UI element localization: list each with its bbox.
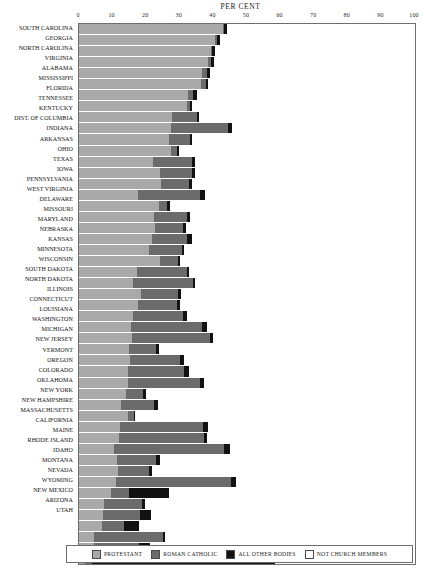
bar-segment-none (205, 190, 415, 200)
bar-row (79, 157, 415, 168)
bar-segment-none (192, 179, 415, 189)
bar-segment-cath (121, 400, 154, 410)
bar-segment-cath (159, 201, 168, 211)
bar-segment-none (189, 267, 415, 277)
bar-segment-none (145, 499, 415, 509)
bar-segment-cath (138, 300, 178, 310)
bar-row (79, 256, 415, 267)
y-axis-label: WEST VIRGINIA (0, 184, 76, 194)
y-axis-label: ALABAMA (0, 63, 76, 73)
y-axis-label: CONNECTICUT (0, 294, 76, 304)
bar-segment-cath (116, 477, 231, 487)
bar-segment-cath (102, 521, 124, 531)
bar-segment-none (180, 256, 415, 266)
bar-row (79, 245, 415, 256)
legend-label: NOT CHURCH MEMBERS (317, 551, 387, 557)
y-axis-label: OHIO (0, 144, 76, 154)
bar-segment-prot (79, 289, 141, 299)
bar-segment-none (208, 79, 415, 89)
bar-segment-prot (79, 477, 116, 487)
bar-segment-none (199, 112, 415, 122)
bar-segment-prot (79, 57, 208, 67)
bar-row (79, 411, 415, 422)
bar-segment-cath (133, 311, 183, 321)
bar-row (79, 400, 415, 411)
y-axis-label: CALIFORNIA (0, 415, 76, 425)
bar-segment-none (192, 234, 415, 244)
bar-row (79, 134, 415, 145)
x-tick-label: 30 (176, 12, 182, 18)
bar-segment-none (159, 344, 415, 354)
bar-segment-prot (79, 411, 128, 421)
bar-segment-none (207, 322, 415, 332)
bar-segment-prot (79, 146, 171, 156)
bar-row (79, 455, 415, 466)
bar-segment-cath (155, 223, 184, 233)
bar-segment-prot (79, 190, 138, 200)
legend-swatch-icon (151, 550, 160, 559)
bar-segment-cath (118, 466, 150, 476)
y-axis-label: NEW HAMPSHIRE (0, 395, 76, 405)
bar-row (79, 477, 415, 488)
bar-segment-cath (137, 267, 187, 277)
bar-row (79, 466, 415, 477)
bar-segment-other (129, 488, 169, 498)
bar-segment-prot (79, 90, 188, 100)
y-axis-label: NEBRASKA (0, 224, 76, 234)
bar-row (79, 101, 415, 112)
bar-row (79, 146, 415, 157)
chart-root: PER CENT 0102030405060708090100 SOUTH CA… (0, 0, 429, 573)
legend-swatch-icon (226, 550, 235, 559)
legend-label: PROTESTANT (104, 551, 142, 557)
bar-segment-none (227, 24, 414, 34)
y-axis-label: NEW JERSEY (0, 334, 76, 344)
y-axis-label: TEXAS (0, 154, 76, 164)
y-axis-label: NORTH CAROLINA (0, 43, 76, 53)
bar-segment-prot (79, 311, 133, 321)
y-axis-label: NEVADA (0, 465, 76, 475)
y-axis-label: DIST. OF COLUMBIA (0, 113, 76, 123)
x-tick-label: 20 (142, 12, 148, 18)
bar-row (79, 234, 415, 245)
x-tick-label: 70 (310, 12, 316, 18)
bar-row (79, 344, 415, 355)
bar-segment-prot (79, 422, 120, 432)
legend-label: ALL OTHER BODIES (238, 551, 295, 557)
bar-segment-none (230, 444, 415, 454)
bar-row (79, 499, 415, 510)
bar-row (79, 422, 415, 433)
y-axis-label: WYOMING (0, 475, 76, 485)
bar-segment-other (124, 521, 139, 531)
y-axis-label: SOUTH DAKOTA (0, 264, 76, 274)
bar-rows (79, 24, 415, 564)
bar-segment-cath (153, 157, 192, 167)
bar-segment-none (197, 90, 415, 100)
x-tick-label: 40 (209, 12, 215, 18)
y-axis-label: GEORGIA (0, 33, 76, 43)
legend-swatch-icon (92, 550, 101, 559)
bar-segment-cath (131, 322, 202, 332)
y-axis-label: PENNSYLVANIA (0, 174, 76, 184)
y-axis-label: INDIANA (0, 123, 76, 133)
bar-row (79, 267, 415, 278)
bar-row (79, 212, 415, 223)
bar-row (79, 521, 415, 532)
bar-segment-none (220, 35, 415, 45)
bar-segment-prot (79, 355, 130, 365)
bar-row (79, 278, 415, 289)
bar-segment-prot (79, 433, 119, 443)
bar-segment-none (189, 366, 415, 376)
y-axis-label: OREGON (0, 355, 76, 365)
bar-row (79, 378, 415, 389)
bar-segment-prot (79, 322, 131, 332)
bar-segment-prot (79, 267, 137, 277)
bar-segment-prot (79, 344, 129, 354)
bar-row (79, 90, 415, 101)
bar-segment-prot (79, 444, 114, 454)
bar-segment-prot (79, 400, 121, 410)
bar-segment-cath (160, 168, 192, 178)
bar-segment-prot (79, 278, 133, 288)
y-axis-label: SOUTH CAROLINA (0, 23, 76, 33)
y-axis-label: VERMONT (0, 345, 76, 355)
bar-row (79, 201, 415, 212)
